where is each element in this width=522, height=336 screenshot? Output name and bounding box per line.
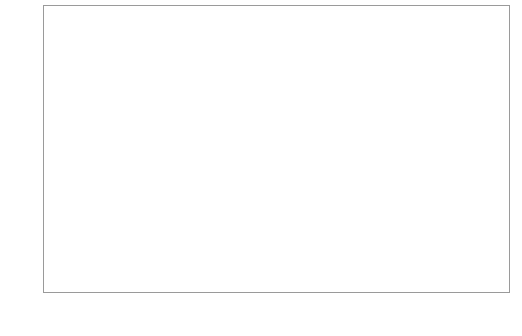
rainfall-frequency-chart (0, 0, 522, 336)
chart-canvas (0, 0, 522, 336)
